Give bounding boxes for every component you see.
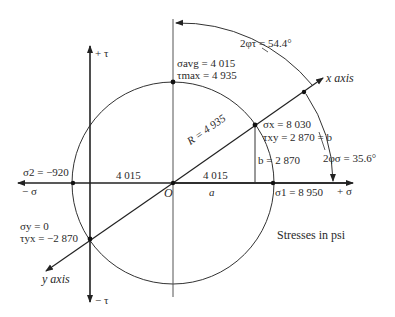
point-x-outer bbox=[302, 90, 306, 94]
sigma-pos-label: + σ bbox=[337, 186, 352, 197]
tau-neg-label: − τ bbox=[95, 295, 108, 306]
sigma2-label: σ2 = −920 bbox=[23, 167, 69, 178]
right-segment-label: 4 015 bbox=[203, 170, 228, 181]
y-axis-line bbox=[46, 183, 173, 271]
point-x bbox=[253, 123, 258, 128]
point-sigma2 bbox=[71, 181, 75, 185]
units-note: Stresses in psi bbox=[277, 230, 345, 241]
point-center bbox=[171, 181, 175, 185]
sigma1-label: σ1 = 8 950 bbox=[275, 187, 323, 198]
sigma-avg-label: σavg = 4 015 bbox=[177, 58, 235, 69]
b-label: b = 2 870 bbox=[258, 155, 300, 166]
center-label: O bbox=[164, 188, 173, 199]
sigma-neg-label: − σ bbox=[22, 186, 37, 197]
sigma-x-label: σx = 8 030 bbox=[263, 119, 311, 130]
tau-max-label: τmax = 4 935 bbox=[177, 70, 237, 81]
point-tau-max bbox=[171, 80, 176, 85]
tau-yx-label: τyx = −2 870 bbox=[20, 233, 78, 244]
left-segment-label: 4 015 bbox=[116, 170, 141, 181]
point-y bbox=[88, 237, 93, 242]
tau-xy-label: τxy = 2 870 = b bbox=[263, 132, 332, 143]
sigma-y-label: σy = 0 bbox=[20, 221, 49, 232]
x-axis-label: x axis bbox=[326, 73, 354, 84]
tau-pos-label: + τ bbox=[95, 48, 108, 59]
angle-tau-label: 2φτ = 54.4° bbox=[240, 38, 292, 49]
a-label: a bbox=[209, 187, 215, 198]
point-sigma1 bbox=[271, 181, 275, 185]
y-axis-label: y axis bbox=[42, 274, 70, 285]
angle-sigma-label: 2φσ = 35.6° bbox=[323, 153, 376, 164]
